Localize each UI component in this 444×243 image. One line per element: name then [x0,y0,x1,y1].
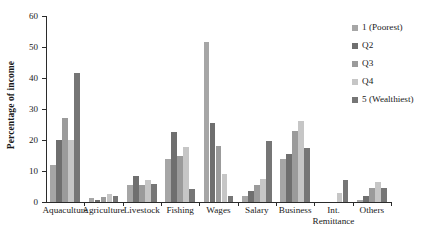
bar [74,73,79,202]
legend-label: Q2 [362,41,373,50]
bar-group [319,16,348,202]
bar [89,198,94,202]
legend-swatch-icon [352,79,358,85]
y-tick-mark [42,47,46,48]
bar [286,154,291,202]
bar [304,148,309,202]
bar [375,182,380,202]
y-tick-mark [42,140,46,141]
y-axis-title: Percentage of income [6,61,16,149]
bar [228,196,233,202]
legend-swatch-icon [352,97,358,103]
bar [298,121,303,202]
bar [95,200,100,202]
y-tick-mark [42,202,46,203]
bar [222,174,227,202]
bar [363,196,368,202]
bar [260,179,265,202]
bar [343,180,348,202]
bar-chart-figure: Percentage of income 0102030405060 Aquac… [0,0,444,243]
bar [337,193,342,202]
bar [127,185,132,202]
plot-area: 0102030405060 AquacultureAgricultureLive… [46,16,391,202]
y-tick-label: 20 [29,136,38,145]
bar [210,123,215,202]
bar [189,189,194,202]
y-tick-label: 10 [29,167,38,176]
bar-group [50,16,79,202]
y-tick-label: 40 [29,74,38,83]
y-tick-label: 30 [29,105,38,114]
legend-item[interactable]: Q3 [352,56,444,71]
bar-group [204,16,233,202]
legend-label: Q4 [362,77,373,86]
bar [68,140,73,202]
x-category-label: Others [347,205,397,216]
bar [292,131,297,202]
bar [171,132,176,202]
bar [216,146,221,202]
bar [381,188,386,202]
y-axis-line [46,16,47,202]
bar [101,197,106,202]
legend-label: Q3 [362,59,373,68]
legend: 1 (Poorest)Q2Q3Q45 (Wealthiest) [352,20,444,110]
bar [107,194,112,202]
bar-group [89,16,118,202]
bar [266,141,271,202]
bar [139,185,144,202]
bar [248,191,253,202]
bar [357,200,362,202]
legend-swatch-icon [352,43,358,49]
bar [62,118,67,202]
y-tick-mark [42,109,46,110]
y-tick-label: 60 [29,12,38,21]
bar [254,185,259,202]
legend-item[interactable]: 5 (Wealthiest) [352,92,444,107]
legend-item[interactable]: 1 (Poorest) [352,20,444,35]
y-tick-label: 0 [34,198,39,207]
bar [183,147,188,202]
bar [145,180,150,202]
legend-swatch-icon [352,61,358,67]
y-tick-mark [42,171,46,172]
bar [56,140,61,202]
legend-item[interactable]: Q2 [352,38,444,53]
y-tick-mark [42,78,46,79]
bar [165,159,170,202]
bar [151,184,156,202]
bar [113,196,118,202]
bar [204,42,209,202]
bar [369,188,374,202]
legend-item[interactable]: Q4 [352,74,444,89]
bar-group [280,16,309,202]
bar-group [165,16,194,202]
bar-group [242,16,271,202]
y-tick-label: 50 [29,43,38,52]
bar [242,196,247,202]
y-axis-title-container: Percentage of income [0,0,22,210]
bar [133,176,138,202]
bar [177,156,182,203]
bar [50,165,55,202]
legend-swatch-icon [352,25,358,31]
legend-label: 5 (Wealthiest) [362,95,414,104]
y-tick-mark [42,16,46,17]
bar-group [127,16,156,202]
legend-label: 1 (Poorest) [362,23,403,32]
bar [280,159,285,202]
x-axis-line [46,202,391,203]
